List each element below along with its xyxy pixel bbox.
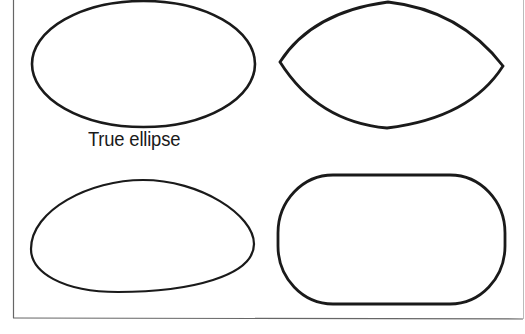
true-ellipse-label: True ellipse — [88, 128, 180, 151]
rounded-rectangle-shape — [278, 175, 505, 304]
true-ellipse-shape — [32, 1, 255, 127]
pointed-ellipse-shape — [280, 2, 503, 128]
diagram-canvas — [0, 0, 525, 334]
egg-oval-shape — [31, 180, 254, 292]
bottom-border-line — [13, 318, 523, 319]
